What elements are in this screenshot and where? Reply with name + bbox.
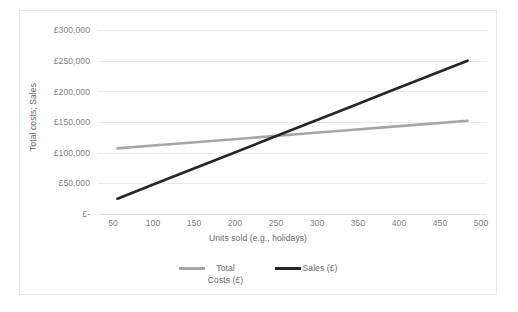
x-axis-tick-label: 250	[269, 218, 283, 228]
legend-swatch-icon	[179, 267, 205, 270]
y-axis-tick-label: £-	[82, 209, 90, 219]
x-axis-title: Units sold (e.g., holidays)	[20, 233, 496, 243]
y-axis-tick-label: £100,000	[54, 148, 90, 158]
x-axis-tick-label: 350	[351, 218, 365, 228]
legend-item-sales[interactable]: Sales (£)	[275, 262, 338, 274]
y-axis-tick-label: £150,000	[54, 117, 90, 127]
series-line-total-costs	[117, 121, 467, 149]
legend-item-total-costs[interactable]: Total Costs (£)	[179, 262, 245, 286]
x-axis-tick-label: 50	[108, 218, 118, 228]
x-axis-tick-label: 100	[146, 218, 160, 228]
y-axis-tick-label: £250,000	[54, 56, 90, 66]
x-axis-tick-label: 300	[310, 218, 324, 228]
x-axis-tick-label: 450	[433, 218, 447, 228]
legend-label: Sales (£)	[303, 262, 338, 274]
x-axis-tick-label: 400	[392, 218, 406, 228]
chart-container: Total costs; Sales £300,000 £250,000 £20…	[19, 10, 497, 295]
x-axis-tick-label: 200	[228, 218, 242, 228]
series-plot	[98, 30, 487, 214]
x-axis-tick-label: 150	[187, 218, 201, 228]
y-axis-tick-label: £50,000	[59, 178, 90, 188]
x-axis-tick-labels: 50 100 150 200 250 300 350 400 450 500	[98, 218, 487, 232]
x-axis-line	[98, 214, 487, 215]
y-axis-tick-label: £200,000	[54, 87, 90, 97]
legend-swatch-icon	[275, 267, 301, 270]
y-axis-tick-labels: £300,000 £250,000 £200,000 £150,000 £100…	[20, 11, 94, 215]
y-axis-tick-label: £300,000	[54, 25, 90, 35]
plot-area	[98, 30, 487, 214]
series-line-sales	[117, 61, 467, 199]
x-axis-tick-label: 500	[474, 218, 488, 228]
bottom-caption-sliver	[0, 306, 518, 312]
chart-legend: Total Costs (£) Sales (£)	[20, 262, 496, 286]
legend-label: Total Costs (£)	[207, 262, 245, 286]
